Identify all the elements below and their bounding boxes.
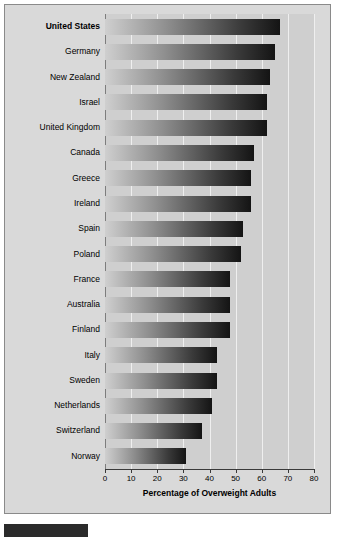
bar — [105, 373, 217, 389]
bar — [105, 398, 212, 414]
bar-row — [105, 368, 314, 393]
bar — [105, 44, 275, 60]
category-label: New Zealand — [5, 65, 100, 90]
bar-row — [105, 317, 314, 342]
category-label: Israel — [5, 90, 100, 115]
bar-row — [105, 393, 314, 418]
bar-series — [105, 14, 314, 469]
bar — [105, 196, 251, 212]
x-tick-label: 40 — [200, 474, 220, 483]
x-tick-label: 0 — [95, 474, 115, 483]
bar-row — [105, 292, 314, 317]
bar-row — [105, 191, 314, 216]
x-tick — [262, 469, 263, 473]
category-label: Italy — [5, 343, 100, 368]
bar-row — [105, 343, 314, 368]
bar — [105, 347, 217, 363]
x-tick — [183, 469, 184, 473]
x-axis-title: Percentage of Overweight Adults — [105, 488, 314, 498]
x-tick-label: 30 — [173, 474, 193, 483]
category-label: Sweden — [5, 368, 100, 393]
bar-row — [105, 267, 314, 292]
category-label: France — [5, 267, 100, 292]
bar — [105, 297, 230, 313]
category-label: Germany — [5, 39, 100, 64]
bar — [105, 221, 243, 237]
category-label: United Kingdom — [5, 115, 100, 140]
category-label: Switzerland — [5, 418, 100, 443]
bar — [105, 322, 230, 338]
bar-row — [105, 115, 314, 140]
category-label: Canada — [5, 140, 100, 165]
gridline — [314, 14, 315, 469]
bar — [105, 271, 230, 287]
x-tick-label: 50 — [226, 474, 246, 483]
category-label: Netherlands — [5, 393, 100, 418]
category-label: Australia — [5, 292, 100, 317]
bar — [105, 246, 241, 262]
bar-row — [105, 14, 314, 39]
x-tick-label: 60 — [252, 474, 272, 483]
x-tick — [210, 469, 211, 473]
x-tick-label: 70 — [278, 474, 298, 483]
bar-row — [105, 166, 314, 191]
category-label: Poland — [5, 242, 100, 267]
x-tick — [288, 469, 289, 473]
bar — [105, 19, 280, 35]
x-tick — [314, 469, 315, 473]
category-label: Ireland — [5, 191, 100, 216]
bar-row — [105, 242, 314, 267]
caption-bar — [4, 524, 88, 537]
x-tick — [157, 469, 158, 473]
bar — [105, 170, 251, 186]
x-tick — [131, 469, 132, 473]
bar — [105, 423, 202, 439]
bar — [105, 69, 270, 85]
x-tick-label: 80 — [304, 474, 324, 483]
x-tick — [236, 469, 237, 473]
bar — [105, 120, 267, 136]
x-tick-label: 10 — [121, 474, 141, 483]
category-label: Greece — [5, 166, 100, 191]
x-tick-label: 20 — [147, 474, 167, 483]
bar — [105, 94, 267, 110]
category-label: Finland — [5, 317, 100, 342]
x-tick — [105, 469, 106, 473]
bar-row — [105, 418, 314, 443]
bar — [105, 448, 186, 464]
bar-row — [105, 39, 314, 64]
bar-row — [105, 444, 314, 469]
chart-page: United StatesGermanyNew ZealandIsraelUni… — [0, 0, 341, 552]
bar-row — [105, 140, 314, 165]
bar-row — [105, 90, 314, 115]
bar-row — [105, 65, 314, 90]
category-label: United States — [5, 14, 100, 39]
bar-row — [105, 216, 314, 241]
bar — [105, 145, 254, 161]
category-label: Spain — [5, 216, 100, 241]
figure-frame: United StatesGermanyNew ZealandIsraelUni… — [4, 4, 331, 514]
category-label: Norway — [5, 444, 100, 469]
